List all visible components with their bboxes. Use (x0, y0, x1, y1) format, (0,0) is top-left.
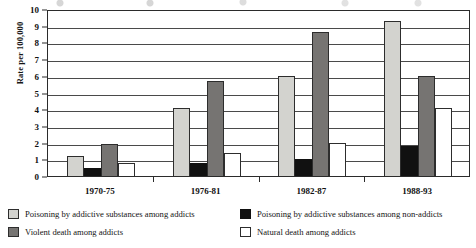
black-swatch (240, 209, 251, 219)
bar (190, 163, 207, 176)
x-axis-tick-mark (364, 177, 365, 182)
y-axis-tick-label: 4 (35, 106, 40, 115)
x-axis-tick-labels: 1970-751976-811982-871988-93 (47, 182, 470, 198)
y-axis-tick-label: 10 (30, 6, 39, 15)
x-axis-tick-label: 1982-87 (296, 186, 326, 196)
bar (207, 81, 224, 176)
bar (435, 108, 452, 176)
bar-group (278, 11, 346, 176)
bar (312, 32, 329, 176)
y-axis-tick-labels: 109876543210 (0, 0, 47, 187)
dark-gray-swatch (8, 227, 19, 237)
x-axis-tick-label: 1988-93 (402, 186, 432, 196)
y-axis-tick-label: 0 (35, 173, 40, 182)
y-axis-tick-label: 7 (35, 56, 40, 65)
bar (118, 163, 135, 176)
bar (101, 144, 118, 176)
plot-area (47, 10, 470, 177)
bar-group (173, 11, 241, 176)
x-axis-tick-mark (153, 177, 154, 182)
bar (295, 159, 312, 176)
legend-entry: Violent death among addicts (8, 227, 240, 237)
bar (384, 21, 401, 176)
light-gray-swatch (8, 209, 19, 219)
y-axis-tick-label: 1 (35, 156, 40, 165)
legend-label: Poisoning by addictive substances among … (25, 210, 195, 219)
bar-group (67, 11, 135, 176)
bar (67, 156, 84, 176)
x-axis-tick-label: 1970-75 (85, 186, 115, 196)
y-axis-tick-label: 6 (35, 72, 40, 81)
bar (173, 108, 190, 176)
bar (84, 168, 101, 176)
legend-entry: Poisoning by addictive substances among … (240, 209, 470, 219)
legend-label: Natural death among addicts (257, 228, 356, 237)
x-axis-tick-mark (259, 177, 260, 182)
chart-legend: Poisoning by addictive substances among … (8, 205, 470, 241)
bar (401, 146, 418, 176)
legend-entry: Natural death among addicts (240, 227, 470, 237)
y-axis-tick-label: 3 (35, 122, 40, 131)
bar-group (384, 11, 452, 176)
bars-layer (48, 11, 469, 176)
white-swatch (240, 227, 251, 237)
x-axis-tick-label: 1976-81 (191, 186, 221, 196)
y-axis-tick-label: 9 (35, 22, 40, 31)
y-axis-tick-label: 8 (35, 39, 40, 48)
y-axis-tick-label: 2 (35, 139, 40, 148)
legend-label: Violent death among addicts (25, 228, 123, 237)
bar (278, 76, 295, 176)
bar (418, 76, 435, 176)
bar (329, 143, 346, 176)
bar (224, 153, 241, 176)
legend-label: Poisoning by addictive substances among … (257, 210, 442, 219)
y-axis-tick-label: 5 (35, 89, 40, 98)
bar-chart-figure: Rate per 100,000 109876543210 1970-75197… (0, 0, 476, 248)
legend-entry: Poisoning by addictive substances among … (8, 209, 240, 219)
